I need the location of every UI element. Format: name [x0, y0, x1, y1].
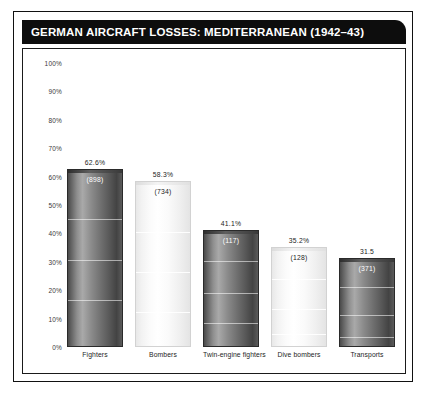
bar-slot: 58.3% (734) [135, 63, 191, 347]
bar: (734) [135, 181, 191, 347]
y-axis-tick: 60% [48, 173, 62, 180]
bar-value-label: 31.5 [360, 248, 374, 255]
bar: (898) [67, 169, 123, 347]
y-axis-tick: 30% [48, 258, 62, 265]
bar-value-label: 58.3% [153, 171, 173, 178]
x-axis-tick: Bombers [135, 351, 191, 358]
y-axis-tick: 0% [52, 344, 62, 351]
bar: (128) [271, 247, 327, 347]
y-axis-tick: 10% [48, 315, 62, 322]
y-axis-tick: 20% [48, 287, 62, 294]
bar-count-label: (371) [340, 265, 394, 272]
x-axis-tick: Twin-engine fighters [203, 351, 259, 358]
plot-area: 100% 90% 80% 70% 60% 50% 40% 30% 20% 10%… [67, 63, 395, 347]
chart-title-bar: GERMAN AIRCRAFT LOSSES: MEDITERRANEAN (1… [22, 20, 406, 44]
bar-slot: 41.1% (117) [203, 63, 259, 347]
y-axis-tick: 80% [48, 116, 62, 123]
chart-title: GERMAN AIRCRAFT LOSSES: MEDITERRANEAN (1… [22, 26, 364, 38]
bar-count-label: (128) [272, 254, 326, 261]
bar-slot: 35.2% (128) [271, 63, 327, 347]
bar-cap [68, 170, 122, 173]
bar-cap [340, 259, 394, 262]
bar: (117) [203, 230, 259, 347]
plot-frame: 100% 90% 80% 70% 60% 50% 40% 30% 20% 10%… [22, 48, 406, 374]
y-axis-tick: 50% [48, 202, 62, 209]
bar-cap [136, 182, 190, 185]
bar-value-label: 35.2% [289, 237, 309, 244]
bar-count-label: (734) [136, 188, 190, 195]
bar-slot: 62.6% (898) [67, 63, 123, 347]
x-axis-tick: Fighters [67, 351, 123, 358]
x-axis-tick: Transports [339, 351, 395, 358]
bar-cap [204, 231, 258, 234]
bar-count-label: (117) [204, 237, 258, 244]
x-axis-tick: Dive bombers [271, 351, 327, 358]
bar-cap [272, 248, 326, 251]
y-axis-tick: 100% [45, 60, 62, 67]
bar-value-label: 62.6% [85, 159, 105, 166]
bar-slot: 31.5 (371) [339, 63, 395, 347]
x-axis-labels: Fighters Bombers Twin-engine fighters Di… [67, 351, 395, 358]
y-axis-tick: 70% [48, 145, 62, 152]
bar: (371) [339, 258, 395, 347]
y-axis-tick: 40% [48, 230, 62, 237]
bar-count-label: (898) [68, 176, 122, 183]
bar-value-label: 41.1% [221, 220, 241, 227]
chart-panel: GERMAN AIRCRAFT LOSSES: MEDITERRANEAN (1… [13, 11, 413, 382]
bar-group: 62.6% (898) 58.3% [67, 63, 395, 347]
y-axis-tick: 90% [48, 88, 62, 95]
